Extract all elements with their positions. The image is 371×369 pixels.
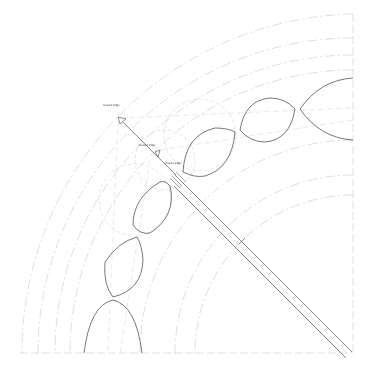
lobe-upper (240, 98, 295, 142)
shaft (174, 180, 352, 358)
lobe-bottom (84, 300, 142, 353)
lobe-bottom-upper (105, 237, 143, 297)
cad-drawing-canvas[interactable]: Head 1 Edge Head 2 Edge Head 3 Edge (0, 0, 371, 369)
label-head-3-edge: Head 3 Edge (165, 162, 182, 165)
label-head-2-edge: Head 2 Edge (139, 144, 156, 147)
arrow-head-icon (155, 150, 160, 157)
arrow-head-icon (118, 117, 126, 124)
lobe-right-large (300, 78, 353, 140)
lobe-mid (183, 128, 235, 177)
frame-lines (20, 14, 353, 353)
construction-arcs (22, 14, 353, 353)
joint-hatch (170, 172, 186, 188)
label-head-1-edge: Head 1 Edge (103, 104, 120, 107)
lobe-lower (133, 182, 171, 234)
